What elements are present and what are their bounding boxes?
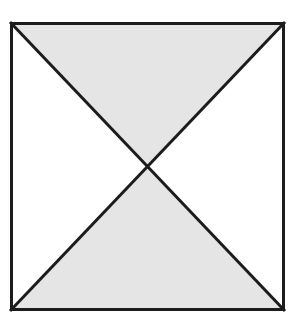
figure-page [0, 0, 299, 331]
figure-canvas [0, 0, 299, 331]
geometric-figure [0, 0, 299, 331]
